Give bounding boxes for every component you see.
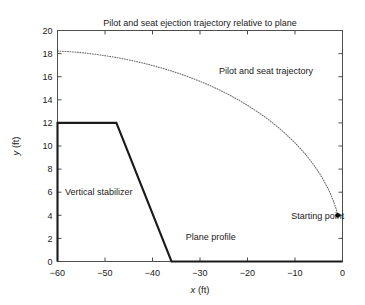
chart-annotation-label: Pilot and seat trajectory bbox=[219, 66, 314, 76]
chart-annotation-label: Plane profile bbox=[186, 232, 236, 242]
y-tick-label: 12 bbox=[42, 118, 52, 128]
y-tick-label: 0 bbox=[47, 257, 52, 267]
y-tick-label: 14 bbox=[42, 95, 52, 105]
y-tick-label: 2 bbox=[47, 234, 52, 244]
x-tick-label: −50 bbox=[97, 268, 112, 278]
trajectory-chart: Pilot and seat ejection trajectory relat… bbox=[0, 0, 365, 305]
x-axis-tick-labels: −60−50−40−30−20−100 bbox=[50, 268, 345, 278]
y-tick-label: 16 bbox=[42, 72, 52, 82]
y-tick-label: 4 bbox=[47, 211, 52, 221]
x-tick-label: −30 bbox=[192, 268, 207, 278]
chart-title: Pilot and seat ejection trajectory relat… bbox=[103, 18, 297, 28]
x-tick-label: −40 bbox=[145, 268, 160, 278]
y-tick-label: 18 bbox=[42, 49, 52, 59]
y-tick-label: 8 bbox=[47, 164, 52, 174]
x-tick-label: −20 bbox=[240, 268, 255, 278]
chart-annotations: Pilot and seat trajectoryVertical stabil… bbox=[65, 66, 345, 242]
x-tick-label: −60 bbox=[50, 268, 65, 278]
x-tick-label: 0 bbox=[340, 268, 345, 278]
y-axis-label-unit: (ft) bbox=[10, 137, 21, 149]
x-axis-label: x (ft) bbox=[190, 284, 210, 295]
y-tick-label: 20 bbox=[42, 26, 52, 36]
y-tick-label: 10 bbox=[42, 141, 52, 151]
svg-text:x (ft): x (ft) bbox=[190, 284, 210, 295]
x-tick-label: −10 bbox=[287, 268, 302, 278]
x-axis-label-unit: (ft) bbox=[198, 284, 210, 295]
svg-text:y (ft): y (ft) bbox=[10, 137, 21, 157]
chart-annotation-label: Vertical stabilizer bbox=[65, 187, 133, 197]
y-tick-label: 6 bbox=[47, 187, 52, 197]
chart-annotation-label: Starting point bbox=[291, 211, 345, 221]
y-axis-tick-labels: 02468101214161820 bbox=[42, 26, 52, 267]
chart-figure: Pilot and seat ejection trajectory relat… bbox=[0, 0, 365, 305]
y-axis-label: y (ft) bbox=[10, 137, 21, 157]
